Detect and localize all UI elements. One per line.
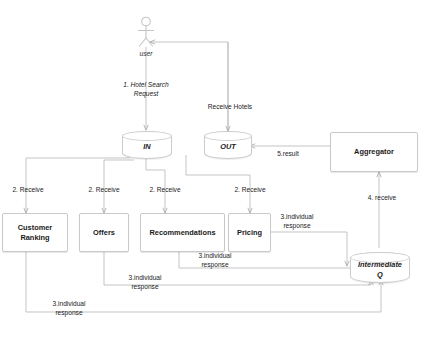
edge-label-individual-response-customer-ranking-line2: response [38,309,100,318]
edge-label-individual-response-customer-ranking: 3.individual response [38,300,100,318]
datastore-intermediate-q-label-line1: Intermediate [358,260,402,269]
edge-label-individual-response-offers-line2: response [114,283,176,292]
datastore-in-label: IN [143,138,150,151]
edge-label-individual-response-pricing-line1: 3.individual [266,213,328,222]
datastore-intermediate-q-label-line2: Q [377,270,383,279]
edge-label-individual-response-offers-line1: 3.individual [114,274,176,283]
edge-label-receive-hotels: Receive Hotels [185,103,275,112]
datastore-intermediate-q-label: Intermediate Q [358,256,402,279]
edge-label-receive-aggregator: 4. receive [352,194,412,203]
edge-label-hotel-search-request: 1. Hotel Search Request [100,81,192,99]
edge-label-individual-response-pricing-line2: response [266,222,328,231]
edge-label-result: 5.result [258,150,318,159]
edge-label-individual-response-recommendations-line2: response [184,261,246,270]
service-box-customer-ranking[interactable]: Customer Ranking [2,213,68,252]
service-box-customer-ranking-label: Customer Ranking [18,223,53,243]
aggregator-box[interactable]: Aggregator [330,132,418,172]
datastore-intermediate-q[interactable]: Intermediate Q [350,252,410,283]
wire-pricing-to-q [271,232,347,266]
service-box-recommendations[interactable]: Recommendations [140,213,225,252]
edge-label-individual-response-pricing: 3.individual response [266,213,328,231]
aggregator-box-label: Aggregator [354,147,394,157]
service-box-customer-ranking-label-line1: Customer [18,223,53,232]
edge-label-individual-response-customer-ranking-line1: 3.individual [38,300,100,309]
datastore-out[interactable]: OUT [204,131,252,159]
edge-label-individual-response-recommendations: 3.individual response [184,252,246,270]
edge-label-receive-3: 2. Receive [137,186,193,195]
edge-label-receive-2: 2. Receive [76,186,132,195]
datastore-out-label: OUT [220,138,236,151]
actor-user [134,16,158,48]
datastore-in[interactable]: IN [122,131,172,159]
service-box-pricing-label: Pricing [237,228,262,238]
service-box-pricing[interactable]: Pricing [228,213,271,252]
edge-label-hotel-search-request-line1: 1. Hotel Search [100,81,192,90]
diagram-canvas: user 1. Hotel Search Request Receive Hot… [0,0,422,341]
edge-label-receive-1: 2. Receive [0,186,56,195]
service-box-customer-ranking-label-line2: Ranking [20,233,49,242]
stick-figure-actor-icon [134,16,158,48]
service-box-offers[interactable]: Offers [79,213,129,252]
wire-in-to-pricing [186,155,250,213]
service-box-recommendations-label: Recommendations [149,228,215,238]
actor-label-user: user [126,50,166,57]
edge-label-receive-4: 2. Receive [222,186,278,195]
edge-label-individual-response-offers: 3.individual response [114,274,176,292]
edge-label-individual-response-recommendations-line1: 3.individual [184,252,246,261]
service-box-offers-label: Offers [93,228,115,238]
edge-label-hotel-search-request-line2: Request [100,90,192,99]
